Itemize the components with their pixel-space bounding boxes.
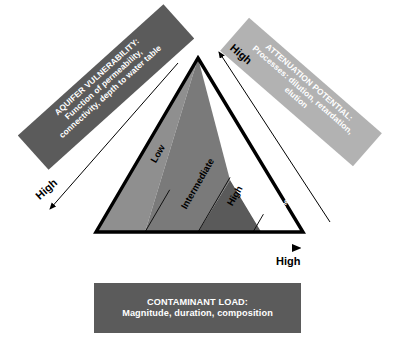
diagram-canvas: AQUIFER VULNERABILITY: Function of perme… [0, 0, 396, 342]
contaminant-load-panel: CONTAMINANT LOAD: Magnitude, duration, c… [94, 283, 301, 333]
contaminant-panel-line-1: CONTAMINANT LOAD: [94, 297, 301, 308]
contaminant-load-high-label: High [276, 255, 300, 267]
contaminant-panel-line-2: Magnitude, duration, composition [94, 308, 301, 319]
